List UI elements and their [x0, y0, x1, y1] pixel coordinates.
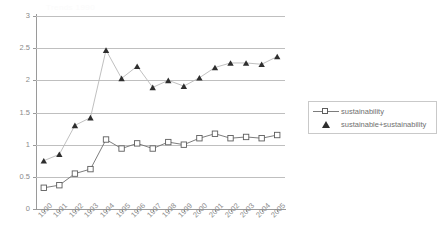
legend-item-sustainability[interactable]: sustainability [313, 105, 432, 118]
data-point-square [72, 171, 77, 176]
data-point-square [243, 134, 248, 139]
data-point-triangle [212, 65, 218, 71]
data-point-triangle [181, 83, 187, 89]
data-point-square [134, 141, 139, 146]
data-point-square [41, 185, 46, 190]
data-point-triangle [56, 152, 62, 158]
data-point-square [181, 142, 186, 147]
legend-label: sustainable+sustainability [341, 120, 426, 129]
data-point-square [228, 136, 233, 141]
data-point-square [103, 137, 108, 142]
line-chart: Trends 1990 00.511.522.53 19901991199219… [0, 0, 443, 244]
series-sustainable-plus-sustainability [41, 47, 281, 163]
data-point-square [166, 139, 171, 144]
data-point-square [57, 183, 62, 188]
data-point-triangle [150, 85, 156, 91]
data-point-square [197, 136, 202, 141]
series-line [44, 134, 277, 188]
data-point-square [259, 136, 264, 141]
data-point-triangle [103, 47, 109, 53]
legend-label: sustainability [341, 107, 384, 116]
data-point-square [275, 132, 280, 137]
data-point-square [150, 146, 155, 151]
legend-item-sustainable-plus-sustainability[interactable]: sustainable+sustainability [313, 118, 432, 131]
data-point-triangle [41, 158, 47, 164]
data-point-square [119, 146, 124, 151]
data-point-square [212, 131, 217, 136]
chart-legend: sustainability sustainable+sustainabilit… [308, 101, 437, 134]
series-line [44, 50, 277, 161]
data-point-triangle [165, 78, 171, 84]
data-point-square [88, 166, 93, 171]
square-marker-icon [313, 106, 339, 117]
data-point-triangle [274, 54, 280, 60]
data-point-triangle [87, 115, 93, 121]
triangle-marker-icon [313, 119, 339, 130]
data-point-triangle [72, 123, 78, 129]
series-sustainability [41, 131, 280, 190]
data-point-triangle [134, 63, 140, 69]
